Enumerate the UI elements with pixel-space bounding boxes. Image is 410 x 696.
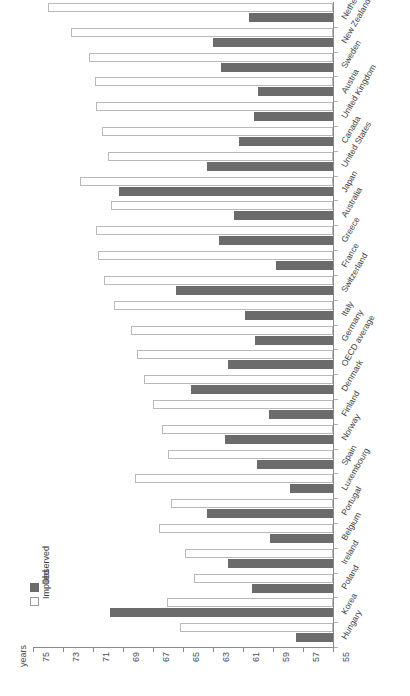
bar-group	[33, 424, 333, 449]
bar-group	[33, 275, 333, 300]
bar-implied	[162, 425, 333, 434]
bar-observed	[119, 187, 334, 196]
bar-implied	[185, 549, 334, 558]
bar-implied	[144, 375, 333, 384]
bar-group	[33, 151, 333, 176]
bar-group	[33, 52, 333, 77]
category-label: Belgium	[339, 510, 363, 542]
bar-implied	[89, 53, 334, 62]
bar-observed	[276, 261, 333, 270]
x-axis-tick-label: 55	[341, 652, 351, 692]
x-axis-tick-label: 69	[131, 652, 141, 692]
x-axis-tick	[303, 647, 304, 652]
bar-implied	[102, 127, 333, 136]
bar-group	[33, 399, 333, 424]
bar-group	[33, 349, 333, 374]
bar-implied	[104, 276, 334, 285]
bar-group	[33, 200, 333, 225]
x-axis-tick-label: 63	[221, 652, 231, 692]
bar-observed	[257, 460, 334, 469]
bar-group	[33, 473, 333, 498]
bar-observed	[219, 236, 333, 245]
bar-group	[33, 225, 333, 250]
bar-group	[33, 498, 333, 523]
category-label: Finland	[339, 388, 362, 417]
bar-implied	[96, 102, 333, 111]
bar-implied	[194, 574, 334, 583]
x-axis-tick-label: 59	[281, 652, 291, 692]
bar-implied	[167, 598, 334, 607]
x-axis-tick	[333, 647, 334, 652]
category-label: Ireland	[339, 539, 361, 567]
bar-group	[33, 250, 333, 275]
bar-observed	[258, 87, 333, 96]
legend-swatch-observed	[30, 583, 39, 592]
y-axis-line	[333, 2, 334, 648]
x-axis-tick-label: 57	[311, 652, 321, 692]
bar-observed	[213, 38, 333, 47]
bar-observed	[191, 385, 334, 394]
bar-group	[33, 2, 333, 27]
x-axis-tick	[123, 647, 124, 652]
bar-implied	[96, 226, 333, 235]
bar-implied	[95, 77, 334, 86]
bar-implied	[159, 524, 333, 533]
bar-implied	[137, 350, 334, 359]
bar-group	[33, 76, 333, 101]
x-axis-tick-label: 65	[191, 652, 201, 692]
bar-group	[33, 325, 333, 350]
bar-group	[33, 523, 333, 548]
bar-group	[33, 300, 333, 325]
x-axis-tick	[183, 647, 184, 652]
x-axis-tick-label: 73	[71, 652, 81, 692]
bar-observed	[296, 633, 334, 642]
category-label: Sweden	[339, 39, 363, 71]
x-axis-tick	[153, 647, 154, 652]
x-axis-tick	[243, 647, 244, 652]
x-axis-tick	[93, 647, 94, 652]
category-label: Norway	[339, 412, 362, 442]
bar-group	[33, 573, 333, 598]
bar-observed	[221, 63, 334, 72]
bar-observed	[254, 112, 334, 121]
bar-observed	[239, 137, 334, 146]
legend-label-implied: Implied	[41, 570, 51, 599]
category-label: Greece	[339, 215, 362, 244]
bar-group	[33, 101, 333, 126]
x-axis-tick-label: 71	[101, 652, 111, 692]
plot-area	[33, 2, 333, 647]
bar-implied	[80, 177, 334, 186]
bar-observed	[255, 336, 333, 345]
bar-implied	[180, 623, 333, 632]
bar-group	[33, 449, 333, 474]
bar-observed	[269, 410, 334, 419]
bar-group	[33, 548, 333, 573]
legend-swatch-implied	[30, 597, 39, 606]
x-axis-tick	[63, 647, 64, 652]
x-axis-tick-label: 67	[161, 652, 171, 692]
bar-implied	[108, 152, 333, 161]
bar-observed	[234, 211, 333, 220]
bar-implied	[48, 3, 333, 12]
bar-implied	[131, 326, 334, 335]
bar-group	[33, 176, 333, 201]
bar-implied	[168, 450, 333, 459]
bar-group	[33, 597, 333, 622]
chart-container: 7573716967656361595755 NetherlandsNew Ze…	[0, 0, 410, 696]
bar-observed	[176, 286, 334, 295]
bar-group	[33, 374, 333, 399]
bar-observed	[290, 484, 334, 493]
bar-implied	[135, 474, 333, 483]
x-axis-tick-label: 75	[41, 652, 51, 692]
x-axis-tick	[213, 647, 214, 652]
bar-implied	[98, 251, 334, 260]
category-label: Poland	[339, 563, 361, 591]
x-axis-tick-label: 61	[251, 652, 261, 692]
bar-implied	[114, 301, 333, 310]
x-axis-tick	[33, 647, 34, 652]
bar-observed	[228, 559, 333, 568]
bar-observed	[249, 13, 333, 22]
bar-observed	[207, 509, 333, 518]
bar-implied	[71, 28, 334, 37]
axis-units-label: years	[18, 645, 28, 667]
